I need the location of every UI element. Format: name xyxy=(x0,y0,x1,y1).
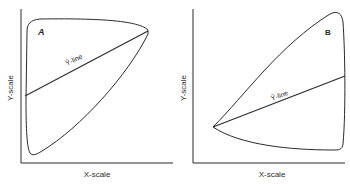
panel-label-a: A xyxy=(37,27,45,37)
y-hat-line-b xyxy=(213,76,345,127)
x-axis-label-a: X-scale xyxy=(84,170,111,179)
line-label-a: Ŷ-line xyxy=(64,52,84,67)
line-label-b: Ŷ-line xyxy=(269,88,289,102)
panel-b: B Ŷ-line Y-scale X-scale xyxy=(179,9,345,179)
y-hat-line-a xyxy=(25,31,148,96)
panel-label-b: B xyxy=(325,28,331,37)
y-axis-label-a: Y-scale xyxy=(6,74,15,100)
diagram-canvas: A Ŷ-line Y-scale X-scale B Ŷ-line Y-scal… xyxy=(0,0,350,184)
x-axis-label-b: X-scale xyxy=(259,170,286,179)
panel-a: A Ŷ-line Y-scale X-scale xyxy=(6,9,173,179)
y-axis-label-b: Y-scale xyxy=(179,74,188,100)
envelope-a xyxy=(26,19,148,155)
